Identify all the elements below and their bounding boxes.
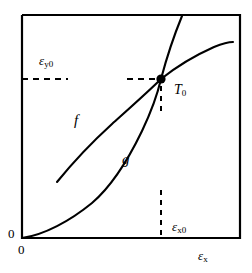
intersection-point-marker [156,74,165,83]
curve-g [22,16,182,238]
label-origin-y: 0 [8,227,15,240]
plot-canvas [0,0,252,273]
frame-box [22,15,240,238]
curve-f [57,42,233,182]
label-curve-g: g [122,152,130,167]
label-point-T0: T0 [174,83,186,97]
epsilon-subscript: y0 [44,59,53,69]
label-epsilon-x0: εx0 [172,220,186,233]
label-origin-x: 0 [18,243,25,256]
epsilon-subscript: x0 [177,225,186,235]
label-epsilon-y0: εy0 [39,54,53,67]
T-symbol: T [174,82,182,97]
T-subscript: 0 [182,88,187,98]
label-axis-x-title: εx [198,249,208,262]
figure-container: εy0 εx0 εx T0 f g 0 0 [0,0,252,273]
axis-frame [22,15,240,238]
epsilon-subscript: x [203,254,208,264]
label-curve-f: f [74,113,78,128]
